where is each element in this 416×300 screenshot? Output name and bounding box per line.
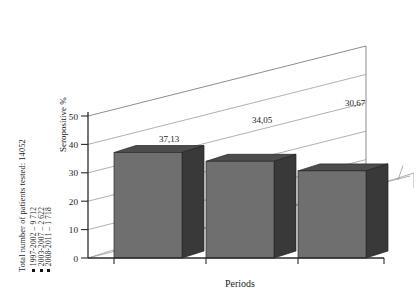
bar-chart: Total number of patients tested: 14052 1… [0,0,416,300]
value-label-2003-2007: 34,05 [252,115,273,125]
y-tick-label-30: 30 [69,168,79,178]
x-axis-title: Periods [66,278,414,289]
legend-bullet-icon [47,269,50,272]
bar-group-1997-2002[interactable] [114,146,204,259]
chart-caption-block: Total number of patients tested: 14052 1… [0,0,52,300]
legend-item-2008-2011: 2008-2011 – 1 718 [44,207,53,272]
chart-canvas: 50 40 30 20 10 0 [66,6,414,268]
plot-area: 50 40 30 20 10 0 [66,6,414,268]
bar-group-2003-2007[interactable] [206,154,296,258]
bar-group-2008-2011[interactable] [298,164,388,258]
value-label-1997-2002: 37,13 [159,134,180,144]
x-tick-label-2003-2007: 2003-2007 [231,266,269,268]
legend-bullet-icon [40,269,43,272]
y-axis [81,112,88,258]
y-tick-label-0: 0 [73,254,78,264]
legend-item-label: 2008-2011 – 1 718 [44,207,53,266]
legend-bullet-icon [32,269,35,272]
x-tick-label-1997-2002: 1997-2002 [138,266,175,268]
x-axis [88,258,384,264]
x-tick-label-2008-2011: 2008-2011 [324,266,361,268]
total-patients-tested-label: Total number of patients tested: 14052 [18,139,27,272]
y-tick-label-50: 50 [69,112,79,122]
y-tick-label-20: 20 [69,197,79,207]
y-tick-label-40: 40 [69,140,79,150]
y-tick-label-10: 10 [69,225,79,235]
value-label-2008-2011: 30,67 [345,98,366,108]
